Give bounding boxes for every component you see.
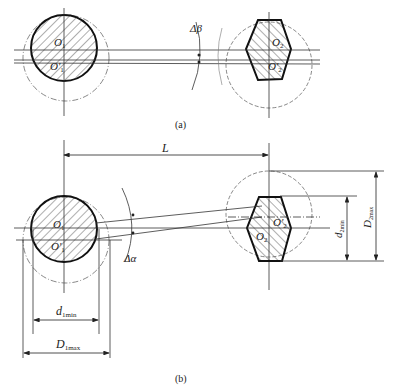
angle-label-beta: Δβ [189,22,202,34]
panel-a: Δβ O1 O'1 O2 O'2 (a) [14,8,320,131]
dim-D1max: D1max [55,337,81,352]
dim-d2min: d2min [332,220,345,238]
caption-a: (a) [175,119,186,131]
caption-b: (b) [175,373,187,385]
distance-label-L: L [161,141,169,155]
panel-b: L Δα O1 O'1 O'2 O2 d2min [14,140,384,385]
alignment-tolerance-diagram: Δβ O1 O'1 O2 O'2 (a) L [0,0,396,387]
angle-label-alpha: Δα [123,252,136,264]
dim-d1min: d1min [56,304,77,319]
dim-D2max: D2max [361,207,374,229]
